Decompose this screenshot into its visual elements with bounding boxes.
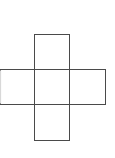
square-left <box>1 70 35 105</box>
square-bottom <box>35 105 70 141</box>
square-top <box>35 35 70 70</box>
square-center <box>35 70 70 105</box>
square-right <box>70 70 106 105</box>
cube-net-diagram <box>0 0 115 158</box>
